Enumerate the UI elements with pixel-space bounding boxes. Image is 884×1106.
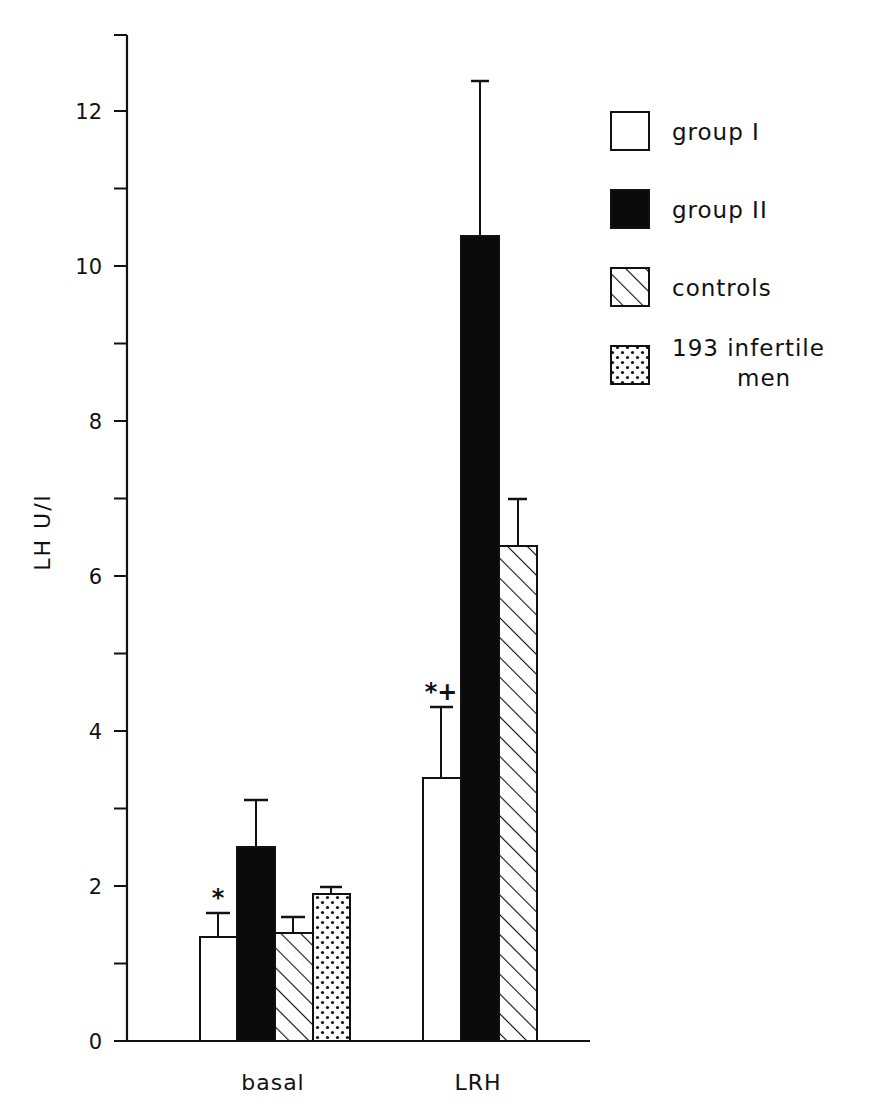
legend-swatch-hatched (611, 268, 649, 306)
y-tick-label-8: 8 (89, 410, 102, 434)
legend-swatch-black (611, 190, 649, 228)
legend-item-infertile-men: 193 infertile men (611, 335, 825, 391)
legend-label: group I (672, 119, 760, 145)
y-tick-label-10: 10 (75, 255, 102, 279)
legend-label: controls (672, 275, 772, 301)
y-tick-label-4: 4 (89, 720, 102, 744)
y-axis: 0 2 4 6 8 10 12 (75, 35, 127, 1054)
y-tick-label-0: 0 (89, 1030, 102, 1054)
y-tick-label-12: 12 (75, 100, 102, 124)
category-label-basal: basal (241, 1070, 305, 1095)
legend-item-group-ii: group II (611, 190, 768, 228)
legend: group I group II controls 193 infertile … (611, 112, 825, 391)
significance-marker-lrh: *+ (425, 678, 458, 706)
bar-basal-group-i (200, 937, 237, 1041)
legend-label-line1: 193 infertile (672, 335, 825, 361)
legend-swatch-white (611, 112, 649, 150)
y-tick-label-6: 6 (89, 565, 102, 589)
bar-lrh-group-i (423, 778, 461, 1041)
bar-lrh-controls (499, 546, 537, 1041)
significance-marker-basal: * (212, 884, 225, 912)
bar-chart: 0 2 4 6 8 10 12 LH U/l * (0, 0, 884, 1106)
category-label-lrh: LRH (454, 1070, 501, 1095)
legend-item-group-i: group I (611, 112, 760, 150)
y-tick-label-2: 2 (89, 875, 102, 899)
bar-basal-group-ii (237, 847, 275, 1041)
bar-lrh-group-ii (461, 236, 499, 1041)
legend-item-controls: controls (611, 268, 772, 306)
y-axis-label: LH U/l (30, 493, 55, 570)
legend-swatch-dotted (611, 346, 649, 384)
bar-group-basal: * (200, 800, 350, 1041)
legend-label: group II (672, 197, 768, 223)
bar-basal-controls (275, 933, 313, 1041)
bar-group-lrh: *+ (423, 81, 537, 1041)
bar-basal-infertile-men (313, 894, 350, 1041)
legend-label-line2: men (737, 365, 791, 391)
